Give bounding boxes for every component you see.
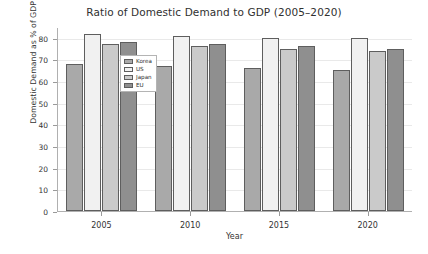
bar <box>209 44 226 211</box>
bar-series-container <box>58 28 412 211</box>
legend-label: Korea <box>136 58 152 65</box>
legend-item: US <box>124 66 152 73</box>
legend-item: Japan <box>124 74 152 81</box>
chart-figure: Ratio of Domestic Demand to GDP (2005–20… <box>0 0 428 254</box>
x-axis-tick-mark <box>101 212 102 216</box>
legend-swatch-icon <box>124 83 133 88</box>
x-axis-tick-mark <box>190 212 191 216</box>
bar-group <box>244 28 316 211</box>
legend-item: Korea <box>124 58 152 65</box>
legend-swatch-icon <box>124 75 133 80</box>
bar <box>155 66 172 211</box>
y-axis-label: Domestic Demand as % of GDP <box>29 0 38 143</box>
y-axis-tick-label: 10 <box>38 186 48 195</box>
chart-title: Ratio of Domestic Demand to GDP (2005–20… <box>0 6 428 18</box>
bar <box>244 68 261 211</box>
bar <box>298 46 315 211</box>
legend-label: US <box>136 66 144 73</box>
legend-item: EU <box>124 82 152 89</box>
plot-area: KoreaUSJapanEU <box>57 28 412 212</box>
y-axis-tick-label: 60 <box>38 78 48 87</box>
y-axis-tick-label: 50 <box>38 99 48 108</box>
y-axis-tick-label: 20 <box>38 164 48 173</box>
bar-group <box>333 28 405 211</box>
legend-label: EU <box>136 82 144 89</box>
x-axis-tick-label: 2005 <box>91 221 111 230</box>
x-axis-tick-mark <box>279 212 280 216</box>
legend-swatch-icon <box>124 59 133 64</box>
bar <box>280 49 297 211</box>
bar <box>191 46 208 211</box>
x-axis-tick-label: 2010 <box>180 221 200 230</box>
bar <box>333 70 350 211</box>
y-axis-tick-label: 80 <box>38 34 48 43</box>
x-axis-tick-label: 2015 <box>269 221 289 230</box>
bar-group <box>155 28 227 211</box>
bar <box>262 38 279 211</box>
y-axis-tick-label: 0 <box>43 208 48 217</box>
bar <box>66 64 83 211</box>
bar <box>84 34 101 212</box>
y-axis-tick-label: 30 <box>38 143 48 152</box>
bar <box>102 44 119 211</box>
x-axis-tick-label: 2020 <box>357 221 377 230</box>
legend-label: Japan <box>136 74 152 81</box>
bar <box>351 38 368 211</box>
bar <box>387 49 404 211</box>
bar <box>369 51 386 211</box>
y-axis-tick-label: 40 <box>38 121 48 130</box>
x-axis-tick-mark <box>368 212 369 216</box>
chart-legend: KoreaUSJapanEU <box>120 55 157 92</box>
bar <box>173 36 190 211</box>
x-axis-label: Year <box>57 232 412 241</box>
y-axis-tick-label: 70 <box>38 56 48 65</box>
legend-swatch-icon <box>124 67 133 72</box>
